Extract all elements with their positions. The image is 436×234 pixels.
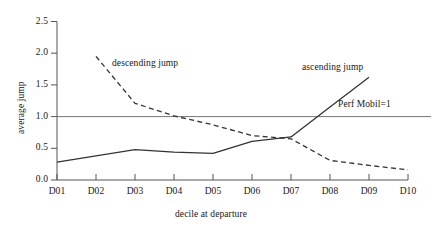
y-tick-label-5: 2.5: [24, 17, 48, 27]
x-tick-label-d02: D02: [88, 187, 105, 197]
series-line-ascending-jump: [57, 77, 369, 162]
x-tick-label-d04: D04: [166, 187, 183, 197]
annotation-ascending-jump: ascending jump: [302, 62, 363, 72]
x-axis-ticks: [57, 174, 408, 180]
x-tick-label-d03: D03: [127, 187, 144, 197]
annotation-descending-jump: descending jump: [112, 58, 178, 68]
x-tick-label-d09: D09: [361, 187, 378, 197]
series-line-descending-jump: [96, 56, 408, 169]
x-tick-label-d01: D01: [49, 187, 66, 197]
y-axis-ticks: [51, 22, 57, 181]
x-tick-label-d10: D10: [400, 187, 417, 197]
y-tick-label-3: 1.5: [24, 80, 48, 90]
x-axis-title: decile at departure: [175, 209, 247, 219]
x-tick-label-d08: D08: [322, 187, 339, 197]
x-tick-label-d07: D07: [283, 187, 300, 197]
x-tick-label-d05: D05: [205, 187, 222, 197]
x-tick-label-d06: D06: [244, 187, 261, 197]
chart-plot-area: [0, 0, 436, 234]
chart-figure: 0.0 0.5 1.0 1.5 2.0 2.5 D01 D02 D03 D04 …: [0, 0, 436, 234]
y-tick-label-1: 0.5: [24, 144, 48, 154]
y-tick-label-0: 0.0: [24, 175, 48, 185]
y-tick-label-2: 1.0: [24, 112, 48, 122]
annotation-perf-mobil: Perf Mobil=1: [338, 99, 391, 109]
y-axis-title: average jump: [16, 81, 26, 134]
y-tick-label-4: 2.0: [24, 48, 48, 58]
